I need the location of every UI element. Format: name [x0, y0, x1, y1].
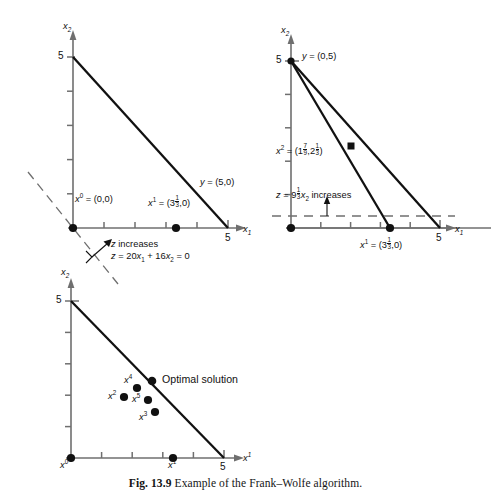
figure-caption-text: Example of the Frank–Wolfe algorithm.	[175, 477, 363, 489]
panel-1-z-arrow-tail	[86, 251, 92, 263]
panel-1-point-x0	[69, 224, 77, 232]
panel-2-label-y: y = (0,5)	[302, 52, 336, 61]
panel-1-note-z-equation: z = 20x1 + 16x2 = 0	[111, 252, 190, 261]
panel-2-point-origin	[287, 224, 295, 232]
panel-1-y-axis-label: x2	[63, 22, 71, 31]
panel-1-point-x1	[172, 224, 180, 232]
panel-2-point-x2	[348, 143, 355, 150]
panel-1-y-tick-label-5: 5	[58, 50, 64, 61]
panel-3-y-axis-arrow	[68, 278, 75, 288]
panel-3-point-x5	[144, 396, 152, 404]
panel-3-label-x5: x5	[132, 395, 140, 404]
panel-2-x-tick-label-5: 5	[436, 232, 442, 243]
panel-3-point-optimal	[148, 377, 157, 386]
panel-1-plot	[0, 0, 250, 268]
figure-root: 5 5 x2 x1 x0 = (0,0) x1 = (313,0) y = (5…	[0, 0, 491, 503]
panel-iteration-2: 5 5 x2 x1 y = (0,5) x2 = (179,213) z = 9…	[250, 0, 491, 268]
panel-2-y-tick-label-5: 5	[276, 54, 282, 65]
panel-3-y-tick-label-5: 5	[56, 294, 62, 305]
panel-1-label-y: y = (5,0)	[200, 178, 234, 187]
panel-3-y-axis-label: x2	[61, 268, 69, 277]
panel-iteration-1: 5 5 x2 x1 x0 = (0,0) x1 = (313,0) y = (5…	[0, 0, 250, 268]
panel-3-label-x2: x2	[108, 392, 116, 401]
panel-1-x-tick-label-5: 5	[225, 232, 231, 243]
panel-3-label-x3: x3	[139, 413, 147, 422]
panel-1-label-x0: x0 = (0,0)	[75, 195, 113, 204]
panel-3-point-x4	[133, 384, 141, 392]
panel-3-label-x0: x0	[60, 461, 68, 470]
panel-2-label-x2: x2 = (179,213)	[276, 143, 323, 157]
panel-1-label-x1: x1 = (313,0)	[148, 195, 190, 209]
panel-2-label-x1: x1 = (313,0)	[360, 237, 402, 251]
panel-1-z-arrow-shaft	[92, 243, 108, 257]
panel-2-y-axis-label: x2	[281, 26, 289, 35]
panel-2-note-objective: z = 913x2 increases	[276, 187, 351, 201]
panel-2-point-y	[287, 57, 294, 64]
panel-3-point-x2	[120, 393, 128, 401]
panel-3-x-axis-label: x1	[243, 454, 251, 463]
figure-caption: Fig. 13.9 Example of the Frank–Wolfe alg…	[0, 477, 491, 489]
panel-3-label-x4: x4	[124, 376, 132, 385]
panel-1-note-z-increases: z increases	[111, 240, 158, 249]
panel-2-point-x1	[386, 224, 394, 232]
panel-3-x-tick-label-5: 5	[220, 461, 226, 472]
panel-convergence: 5 5 x2 x1 Optimal solution x0 x1 x2 x3 x…	[0, 268, 300, 478]
panel-3-label-optimal-solution: Optimal solution	[162, 374, 238, 385]
panel-3-point-x3	[151, 408, 159, 416]
panel-2-x-axis-label: x1	[455, 225, 463, 234]
panel-3-label-x1: x1	[168, 461, 176, 470]
figure-number: Fig. 13.9	[129, 477, 172, 489]
panel-3-plot	[0, 268, 300, 478]
